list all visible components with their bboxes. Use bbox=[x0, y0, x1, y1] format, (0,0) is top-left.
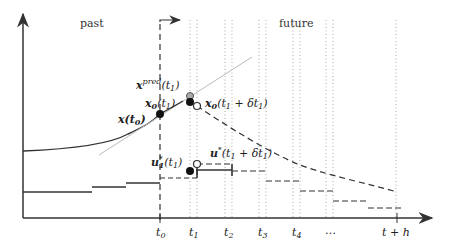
horizon-label: t + h bbox=[382, 226, 410, 239]
label-x0-t1-dt: x0(t1 + δt1) bbox=[204, 97, 268, 111]
label-u-star-t1-dt: u*(t1 + δt1) bbox=[210, 145, 272, 161]
applied-control bbox=[197, 170, 232, 171]
svg-text:t0: t0 bbox=[156, 226, 166, 240]
future-arrow-icon bbox=[160, 20, 180, 22]
ellipsis-label: … bbox=[325, 224, 336, 237]
label-u-star-t1: u*1(t1) bbox=[151, 154, 182, 170]
u-star-t1-dt-point bbox=[194, 161, 201, 168]
label-x-t0: x(t0) bbox=[117, 113, 146, 127]
u-star-t1-point bbox=[186, 167, 194, 175]
svg-text:t4: t4 bbox=[292, 226, 302, 240]
svg-text:t2: t2 bbox=[224, 226, 234, 240]
dotted-time-lines bbox=[190, 20, 396, 218]
x0-t1-point bbox=[186, 98, 194, 106]
mpc-timeline-diagram: past future x(t0) xpred(t1) x0(t1) x0(t1… bbox=[0, 0, 451, 245]
label-x0-t1: x0(t1) bbox=[144, 97, 175, 111]
label-x-pred-t1: xpred(t1) bbox=[135, 77, 179, 93]
svg-text:t3: t3 bbox=[258, 226, 268, 240]
future-label: future bbox=[279, 17, 313, 30]
svg-text:t1: t1 bbox=[189, 226, 199, 240]
past-label: past bbox=[80, 17, 104, 30]
x-t0-point bbox=[156, 110, 164, 118]
control-past bbox=[23, 183, 160, 192]
time-axis-labels: t0 t1 t2 t3 t4 … t + h bbox=[156, 224, 410, 240]
x0-t1-dt-point bbox=[194, 103, 201, 110]
